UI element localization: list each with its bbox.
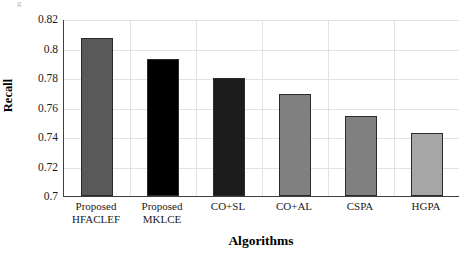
y-tick-label: 0.7	[14, 191, 58, 203]
x-tick-label: HGPA	[393, 200, 459, 213]
y-tick-label: 0.8	[14, 44, 58, 56]
x-tick-label: CSPA	[327, 200, 393, 213]
bar-proposed-hfaclef[interactable]	[81, 38, 113, 196]
x-axis-tick-labels: ProposedHFACLEFProposedMKLCECO+SLCO+ALCS…	[63, 200, 459, 234]
y-tick-label: 0.72	[14, 162, 58, 174]
bars-layer	[64, 20, 459, 196]
x-tick-label-line: CSPA	[327, 200, 393, 213]
y-tick-label: 0.76	[14, 103, 58, 115]
y-tick-label: 0.74	[14, 132, 58, 144]
corner-artifact-mark: g	[17, 0, 25, 7]
bar-hgpa[interactable]	[411, 133, 443, 196]
plot-area	[63, 20, 459, 197]
x-tick-label-line: Proposed	[129, 200, 195, 213]
bar-co+al[interactable]	[279, 94, 311, 196]
x-tick-label-line: CO+SL	[195, 200, 261, 213]
bar-cspa[interactable]	[345, 116, 377, 196]
x-tick-label-line: MKLCE	[129, 213, 195, 226]
bar-co+sl[interactable]	[213, 78, 245, 196]
x-tick-label: ProposedHFACLEF	[63, 200, 129, 225]
y-axis-tick-labels: 0.820.80.780.760.740.720.7	[12, 20, 58, 197]
bar-proposed-mklce[interactable]	[147, 59, 179, 196]
x-tick-label-line: CO+AL	[261, 200, 327, 213]
x-tick-label-line: HGPA	[393, 200, 459, 213]
x-axis-title: Algorithms	[63, 233, 459, 249]
y-tick-label: 0.78	[14, 73, 58, 85]
y-tick-label: 0.82	[14, 14, 58, 26]
recall-bar-chart: g Recall 0.820.80.780.760.740.720.7 Prop…	[0, 0, 471, 258]
x-tick-label-line: Proposed	[63, 200, 129, 213]
x-tick-label-line: HFACLEF	[63, 213, 129, 226]
x-tick-label: ProposedMKLCE	[129, 200, 195, 225]
x-tick-label: CO+AL	[261, 200, 327, 213]
x-tick-label: CO+SL	[195, 200, 261, 213]
